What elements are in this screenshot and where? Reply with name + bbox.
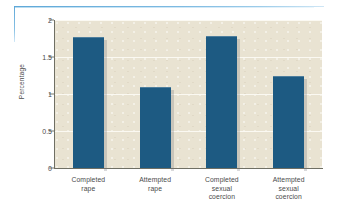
x-axis-label-line: sexual [251,185,327,194]
bar [73,37,104,168]
bar [273,76,304,169]
y-tick-label: 0.5 [6,128,52,135]
x-axis-label-line: Attempted [117,176,193,185]
x-axis-label: Attemptedrape [117,176,193,193]
y-axis-ticks: 21.510.50 [0,0,52,224]
gridline [55,20,322,21]
bar-chart: Percentage 21.510.50 CompletedrapeAttemp… [0,0,337,224]
plot-area [55,20,322,168]
y-tick-label: 2 [6,17,52,24]
bar [206,36,237,168]
y-tick-label: 1 [6,91,52,98]
x-axis-label-line: Completed [184,176,260,185]
x-axis-label-line: Attempted [251,176,327,185]
x-axis-label: Completedrape [50,176,126,193]
x-axis-line [54,168,323,169]
x-axis-label-line: rape [50,185,126,194]
y-tick-label: 0 [6,165,52,172]
x-axis-label-line: Completed [50,176,126,185]
x-axis-label: Completedsexualcoercion [184,176,260,202]
x-axis-label-line: coercion [184,193,260,202]
bar [140,87,171,168]
x-axis-label-line: sexual [184,185,260,194]
top-divider-rule [14,6,324,7]
x-axis-label-line: rape [117,185,193,194]
y-tick-label: 1.5 [6,54,52,61]
x-axis-label: Attemptedsexualcoercion [251,176,327,202]
x-axis-label-line: coercion [251,193,327,202]
